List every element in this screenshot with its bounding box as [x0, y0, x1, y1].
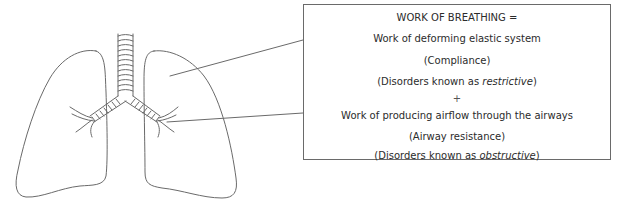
elastic-work-label: Work of deforming elastic system	[304, 33, 610, 45]
right-main-bronchus	[125, 96, 178, 137]
leader-line-compliance	[170, 40, 303, 76]
leader-line-resistance	[167, 113, 303, 122]
left-bronchial-branch	[70, 107, 94, 137]
work-of-breathing-box: WORK OF BREATHING = Work of deforming el…	[303, 4, 611, 160]
disorders-prefix: (Disorders known as	[377, 76, 482, 87]
disorders-prefix: (Disorders known as	[374, 150, 479, 161]
obstructive-disorders-label: (Disorders known as obstructive)	[304, 150, 610, 162]
box-title: WORK OF BREATHING =	[304, 12, 610, 24]
restrictive-disorders-label: (Disorders known as restrictive)	[304, 76, 610, 88]
plus-operator: +	[304, 93, 610, 105]
obstructive-term: obstructive	[479, 150, 535, 161]
airflow-work-label: Work of producing airflow through the ai…	[304, 110, 610, 122]
restrictive-term: restrictive	[482, 76, 533, 87]
trachea	[118, 34, 133, 96]
left-main-bronchus	[70, 96, 126, 137]
airway-resistance-label: (Airway resistance)	[304, 131, 610, 143]
disorders-suffix: )	[536, 150, 540, 161]
disorders-suffix: )	[533, 76, 537, 87]
compliance-label: (Compliance)	[304, 55, 610, 67]
left-lung	[16, 50, 107, 197]
